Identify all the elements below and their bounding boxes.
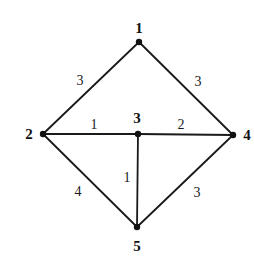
edge-3-4 xyxy=(138,134,233,135)
weighted-graph-diagram: 3312143 12345 xyxy=(0,0,254,262)
edge-4-5 xyxy=(137,135,233,227)
node-label-2: 2 xyxy=(25,126,33,142)
node-label-4: 4 xyxy=(243,127,251,143)
edge-weight-label-4-5: 3 xyxy=(194,185,201,200)
node-label-3: 3 xyxy=(133,110,141,126)
edge-3-5 xyxy=(137,134,138,227)
edge-weight-label-3-4: 2 xyxy=(178,117,185,132)
node-5-dot xyxy=(134,224,140,230)
node-label-5: 5 xyxy=(133,238,141,254)
edge-weight-label-2-3: 1 xyxy=(91,117,98,132)
edge-1-4 xyxy=(139,42,233,135)
node-1-dot xyxy=(136,39,142,45)
node-4-dot xyxy=(230,132,236,138)
node-2-dot xyxy=(40,131,46,137)
edge-weight-label-1-2: 3 xyxy=(77,73,84,88)
edge-weight-label-1-4: 3 xyxy=(195,74,202,89)
edge-weight-label-3-5: 1 xyxy=(124,170,131,185)
node-3-dot xyxy=(135,131,141,137)
edge-weight-label-2-5: 4 xyxy=(75,184,82,199)
node-label-1: 1 xyxy=(135,20,143,36)
